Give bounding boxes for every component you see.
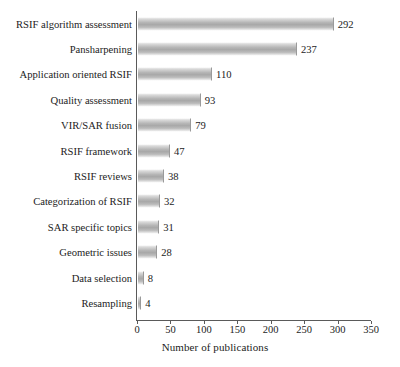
bar-row: RSIF reviews38 xyxy=(0,163,400,188)
category-label: Resampling xyxy=(81,297,132,310)
bar xyxy=(138,17,334,30)
category-label: SAR specific topics xyxy=(48,220,132,233)
bar-row: SAR specific topics31 xyxy=(0,214,400,239)
x-axis-tick-label: 200 xyxy=(263,324,279,336)
x-axis-tick-label: 250 xyxy=(296,324,312,336)
category-label: RSIF framework xyxy=(61,144,133,157)
category-label: Geometric issues xyxy=(59,246,132,259)
bar-value-label: 93 xyxy=(205,93,216,106)
bar xyxy=(138,271,144,284)
category-label: RSIF algorithm assessment xyxy=(16,17,132,30)
x-axis-tick-label: 300 xyxy=(330,324,346,336)
bar-value-label: 79 xyxy=(195,119,206,132)
x-axis-tick-label: 50 xyxy=(165,324,176,336)
x-axis-tick-label: 350 xyxy=(363,324,379,336)
bar-value-label: 32 xyxy=(164,195,175,208)
bar xyxy=(138,68,213,81)
bar-row: Quality assessment93 xyxy=(0,87,400,112)
x-axis-tick-label: 150 xyxy=(229,324,245,336)
bar xyxy=(138,93,201,106)
bar xyxy=(138,43,297,56)
bar-value-label: 8 xyxy=(148,271,153,284)
bar-row: Geometric issues28 xyxy=(0,240,400,265)
category-label: VIR/SAR fusion xyxy=(61,119,132,132)
bar-value-label: 28 xyxy=(161,246,172,259)
x-axis-tick-label: 0 xyxy=(134,324,139,336)
bar-row: Data selection8 xyxy=(0,265,400,290)
category-label: RSIF reviews xyxy=(74,170,132,183)
x-axis-tick-label: 100 xyxy=(196,324,212,336)
x-axis-title: Number of publications xyxy=(0,341,400,353)
category-label: Categorization of RSIF xyxy=(33,195,132,208)
bar-value-label: 4 xyxy=(145,297,150,310)
bar-row: Resampling4 xyxy=(0,290,400,315)
bar xyxy=(138,220,160,233)
bar xyxy=(138,297,142,310)
category-label: Data selection xyxy=(72,271,132,284)
bar-value-label: 38 xyxy=(168,170,179,183)
bar-row: RSIF framework47 xyxy=(0,138,400,163)
bar-chart: RSIF algorithm assessment292Pansharpenin… xyxy=(0,0,400,367)
bar xyxy=(138,170,164,183)
bar-row: Categorization of RSIF32 xyxy=(0,189,400,214)
bar-row: VIR/SAR fusion79 xyxy=(0,113,400,138)
bar-row: RSIF algorithm assessment292 xyxy=(0,11,400,36)
x-axis-title-label: Number of publications xyxy=(132,341,269,353)
category-label: Application oriented RSIF xyxy=(20,68,132,81)
bar xyxy=(138,246,158,259)
bar-row: Application oriented RSIF110 xyxy=(0,62,400,87)
bar xyxy=(138,195,160,208)
bar xyxy=(138,144,170,157)
bar-value-label: 47 xyxy=(174,144,185,157)
category-label: Pansharpening xyxy=(70,43,132,56)
bar-row: Pansharpening237 xyxy=(0,36,400,61)
bar xyxy=(138,119,192,132)
bar-value-label: 237 xyxy=(301,43,317,56)
bar-value-label: 292 xyxy=(338,17,354,30)
category-label: Quality assessment xyxy=(50,93,132,106)
bar-value-label: 31 xyxy=(163,220,174,233)
bar-value-label: 110 xyxy=(216,68,232,81)
